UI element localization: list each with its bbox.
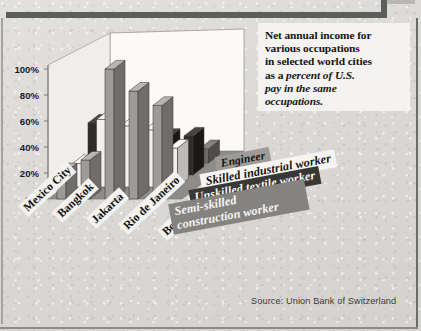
source-caption: Source: Union Bank of Switzerland: [251, 296, 396, 306]
chart-legend: Engineer Skilled industrial worker Unski…: [0, 0, 421, 331]
chart-page: 100%80%60%40%20%0% Mexico CityBangkokJak…: [0, 0, 421, 331]
